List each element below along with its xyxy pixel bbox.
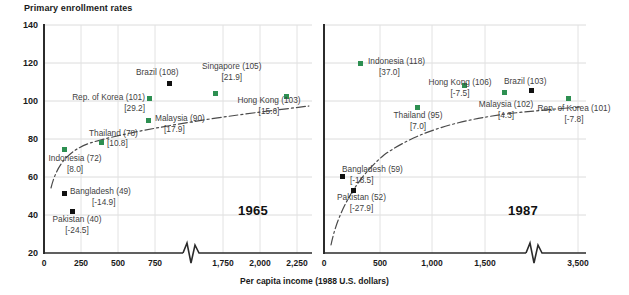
label-malaysia-1965: Malaysia (90) [17.9] [155, 113, 205, 134]
label-pakistan-1987-bracket: [-27.9] [314, 203, 409, 214]
label-pakistan-1965-name: Pakistan (40) [32, 214, 122, 225]
label-pakistan-1965-bracket: [-24.5] [32, 225, 122, 236]
label-korea-1987-name: Rep. of Korea (101) [524, 103, 624, 114]
xtick-1987-3500: 3,500 [556, 258, 600, 268]
label-korea-1965: Rep. of Korea (101) [29.2] [57, 92, 145, 113]
data-point-malaysia-1965 [146, 118, 151, 123]
label-bangladesh-1987-bracket: [-18.5] [350, 175, 403, 186]
label-brazil-1987: Brazil (103) [504, 76, 546, 87]
xtick-1965-750: 750 [133, 258, 177, 268]
label-thailand-1965-bracket: [10.8] [107, 138, 128, 148]
xtick-1987-1000: 1,000 [410, 258, 454, 268]
label-indonesia-1965: Indonesia (72) [8.0] [30, 153, 120, 174]
label-thailand-1987-name: Thailand (95) [372, 110, 464, 121]
figure-root: Primary enrollment rates [0, 0, 629, 295]
ytick-80: 80 [12, 134, 38, 144]
label-bangladesh-1965-bracket: [-14.9] [92, 197, 131, 208]
data-point-korea-1965 [147, 96, 152, 101]
data-point-brazil-1965 [167, 81, 172, 86]
label-bangladesh-1987-name: Bangladesh (59) [342, 164, 403, 175]
label-indonesia-1965-name: Indonesia (72) [30, 153, 120, 164]
data-point-indonesia-1987 [358, 61, 363, 66]
year-label-1987: 1987 [508, 203, 538, 218]
ytick-20: 20 [12, 248, 38, 258]
label-brazil-1987-name: Brazil (103) [504, 76, 546, 87]
label-indonesia-1987-name: Indonesia (118) [368, 56, 425, 67]
label-hongkong-1965-name: Hong Kong (103) [224, 95, 314, 106]
label-thailand-1987-bracket: [7.0] [372, 121, 464, 132]
label-korea-1965-bracket: [29.2] [57, 103, 145, 114]
label-thailand-1987: Thailand (95) [7.0] [372, 110, 464, 131]
label-bangladesh-1965-name: Bangladesh (49) [70, 186, 131, 197]
label-bangladesh-1965: Bangladesh (49) [-14.9] [70, 186, 131, 207]
label-pakistan-1987-name: Pakistan (52) [314, 192, 409, 203]
label-korea-1987-bracket: [-7.8] [524, 114, 624, 125]
plot-area-1987 [314, 0, 629, 295]
xtick-1987-1500: 1,500 [463, 258, 507, 268]
data-point-thailand-1965 [99, 140, 104, 145]
label-malaysia-1965-name: Malaysia (90) [155, 113, 205, 124]
label-singapore-1965: Singapore (105) [21.9] [202, 61, 262, 82]
ytick-140: 140 [12, 20, 38, 30]
data-point-brazil-1987 [529, 88, 534, 93]
label-korea-1965-name: Rep. of Korea (101) [57, 92, 145, 103]
data-point-korea-1987 [566, 96, 571, 101]
label-hongkong-1965: Hong Kong (103) [15.6] [224, 95, 314, 116]
label-brazil-1965-name: Brazil (108) [136, 67, 178, 78]
data-point-indonesia-1965 [62, 147, 67, 152]
label-korea-1987: Rep. of Korea (101) [-7.8] [524, 103, 624, 124]
label-singapore-1965-name: Singapore (105) [202, 61, 262, 72]
label-indonesia-1965-bracket: [8.0] [30, 164, 120, 175]
year-label-1965: 1965 [238, 203, 268, 218]
panel-1987: 0 500 1,000 1,500 3,500 1987 Indonesia (… [314, 0, 629, 295]
xtick-1987-500: 500 [358, 258, 402, 268]
plot-area-1965 [0, 0, 315, 295]
data-point-singapore-1965 [213, 91, 218, 96]
label-pakistan-1987: Pakistan (52) [-27.9] [314, 192, 409, 213]
label-hongkong-1965-bracket: [15.6] [224, 106, 314, 117]
label-bangladesh-1987: Bangladesh (59) [-18.5] [342, 164, 403, 185]
label-pakistan-1965: Pakistan (40) [-24.5] [32, 214, 122, 235]
label-thailand-1965-name: Thailand (78) [89, 128, 138, 139]
label-hongkong-1987: Hong Kong (106) [-7.5] [410, 77, 510, 98]
ytick-100: 100 [12, 96, 38, 106]
label-brazil-1965: Brazil (108) [136, 67, 178, 78]
label-thailand-1965: Thailand (78) [89, 128, 138, 139]
label-hongkong-1987-name: Hong Kong (106) [410, 77, 510, 88]
ytick-120: 120 [12, 58, 38, 68]
label-hongkong-1987-bracket: [-7.5] [410, 88, 510, 99]
label-indonesia-1987-bracket: [37.0] [379, 67, 425, 78]
panel-1965: 140 120 100 80 60 40 20 0 250 500 750 1,… [0, 0, 315, 295]
label-singapore-1965-bracket: [21.9] [202, 72, 262, 83]
data-point-bangladesh-1965 [62, 191, 67, 196]
label-thailand-1965-bracket-wrap: [10.8] [107, 138, 128, 149]
x-axis-title: Per capita income (1988 U.S. dollars) [0, 276, 629, 286]
xtick-1987-0: 0 [302, 258, 346, 268]
label-indonesia-1987: Indonesia (118) [37.0] [368, 56, 425, 77]
label-malaysia-1965-bracket: [17.9] [164, 124, 205, 135]
